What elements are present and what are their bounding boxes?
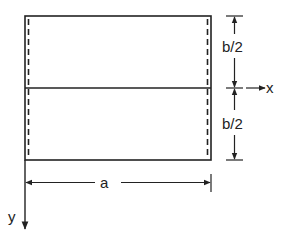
width-label: a	[100, 174, 109, 191]
x-axis-label: x	[266, 79, 274, 96]
width-dimension: a	[26, 174, 211, 192]
height-dimension: b/2 b/2	[222, 16, 243, 160]
plate-diagram: b/2 b/2 x a y	[0, 0, 284, 238]
upper-half-label: b/2	[222, 38, 243, 55]
lower-half-label: b/2	[222, 115, 243, 132]
y-axis-label: y	[8, 208, 16, 225]
plate	[25, 16, 211, 160]
y-axis: y	[8, 160, 25, 229]
x-axis: x	[246, 79, 274, 96]
